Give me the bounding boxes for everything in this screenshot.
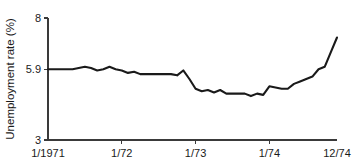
x-tick-label: 1/74 [259, 147, 280, 159]
unemployment-rate-line-chart: Unemployment rate (%) 35.98 1/19711/721/… [0, 0, 353, 167]
y-axis-label-text: Unemployment rate (%) [4, 18, 16, 140]
y-tick-label: 5.9 [26, 63, 41, 75]
chart-figure: Unemployment rate (%) 35.98 1/19711/721/… [0, 0, 353, 167]
y-axis-label: Unemployment rate (%) [4, 18, 16, 140]
x-tick-label: 12/74 [323, 147, 351, 159]
unemployment-rate-line [48, 38, 337, 97]
y-axis-ticks: 35.98 [26, 12, 48, 146]
y-tick-label: 8 [35, 12, 41, 24]
chart-axes [48, 18, 337, 140]
axis-lines [48, 18, 337, 140]
x-axis-ticks: 1/19711/721/731/7412/74 [31, 140, 351, 159]
x-tick-label: 1/72 [111, 147, 132, 159]
x-tick-label: 1/73 [185, 147, 206, 159]
data-series-group [48, 38, 337, 97]
y-tick-label: 3 [35, 134, 41, 146]
x-tick-label: 1/1971 [31, 147, 65, 159]
